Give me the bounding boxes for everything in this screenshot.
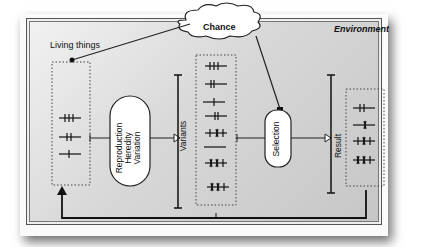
process-label-variation: Variation bbox=[133, 104, 142, 192]
diagram-lines bbox=[0, 0, 428, 247]
environment-label: Environment bbox=[334, 24, 389, 34]
chance-cloud bbox=[178, 3, 260, 39]
chance-label: Chance bbox=[203, 22, 236, 32]
living-things-label: Living things bbox=[50, 40, 100, 50]
process-label: Reproduction Heredity Variation bbox=[115, 104, 145, 192]
selection-label: Selection bbox=[272, 114, 284, 164]
variants-label: Variants bbox=[179, 116, 191, 156]
result-label: Result bbox=[334, 128, 346, 164]
